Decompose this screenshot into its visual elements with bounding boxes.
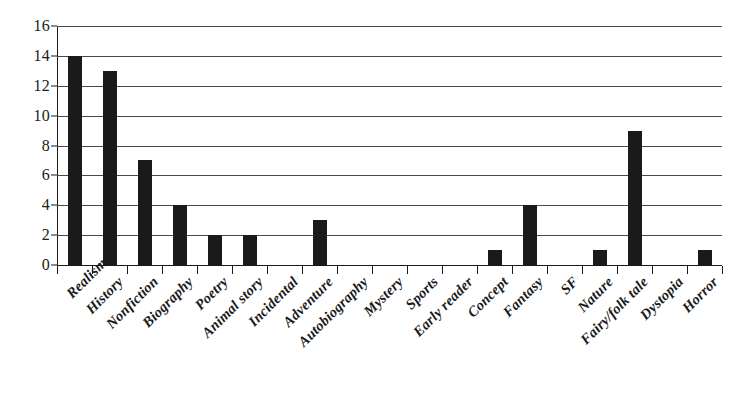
bar [523,205,537,265]
x-tick-mark-16 [617,266,618,274]
bar-slot [92,26,127,265]
x-tick-mark-4 [197,266,198,274]
bar [313,220,327,265]
bar-chart-figure: 0246810121416 RealismHistoryNonfictionBi… [0,0,748,394]
bar-slot [372,26,407,265]
bar [208,235,222,265]
bar [488,250,502,265]
x-tick-mark-2 [127,266,128,274]
y-tick-label-14: 14 [0,48,50,64]
bar [173,205,187,265]
y-tick-mark-14 [51,55,57,56]
bar-slot [127,26,162,265]
bar [138,160,152,265]
x-tick-label-realism: Realism [64,274,91,301]
bar-slot [687,26,722,265]
bar [628,131,642,265]
y-tick-mark-10 [51,115,57,116]
bar [593,250,607,265]
y-tick-label-6: 6 [0,167,50,183]
x-tick-mark-3 [162,266,163,274]
bar-slot [162,26,197,265]
bar-slot [302,26,337,265]
x-tick-mark-15 [582,266,583,274]
x-tick-mark-5 [232,266,233,274]
y-tick-mark-2 [51,235,57,236]
bar-slot [547,26,582,265]
y-tick-mark-0 [51,265,57,266]
bar [103,71,117,265]
bar [243,235,257,265]
x-tick-mark-7 [302,266,303,274]
y-tick-label-8: 8 [0,138,50,154]
bar-slot [197,26,232,265]
bar-slot [337,26,372,265]
bar-slot [617,26,652,265]
bar-slot [232,26,267,265]
y-tick-mark-4 [51,205,57,206]
x-tick-mark-17 [652,266,653,274]
y-tick-label-16: 16 [0,18,50,34]
y-tick-mark-8 [51,145,57,146]
x-tick-mark-6 [267,266,268,274]
bar-slot [512,26,547,265]
bar-slot [582,26,617,265]
y-tick-label-12: 12 [0,78,50,94]
bar-slot [652,26,687,265]
x-tick-mark-19 [722,266,723,274]
bar [698,250,712,265]
bar [68,56,82,265]
x-tick-mark-8 [337,266,338,274]
bar-slot [407,26,442,265]
y-tick-mark-6 [51,175,57,176]
y-tick-label-0: 0 [0,257,50,273]
y-tick-label-4: 4 [0,197,50,213]
plot-area [57,26,722,265]
x-axis-tick-marks [57,266,722,274]
bar-slot [442,26,477,265]
y-tick-label-2: 2 [0,227,50,243]
bar-slot [57,26,92,265]
x-tick-mark-18 [687,266,688,274]
bar-slot [267,26,302,265]
y-tick-mark-16 [51,26,57,27]
bar-slot [477,26,512,265]
x-tick-mark-11 [442,266,443,274]
x-tick-mark-0 [57,266,58,274]
x-tick-mark-9 [372,266,373,274]
x-tick-mark-10 [407,266,408,274]
y-axis-tick-labels: 0246810121416 [0,26,50,265]
bars-layer [57,26,722,265]
y-tick-mark-12 [51,85,57,86]
x-axis-tick-labels: RealismHistoryNonfictionBiographyPoetryA… [57,274,722,394]
x-tick-mark-12 [477,266,478,274]
x-tick-mark-14 [547,266,548,274]
x-tick-mark-13 [512,266,513,274]
y-tick-label-10: 10 [0,108,50,124]
